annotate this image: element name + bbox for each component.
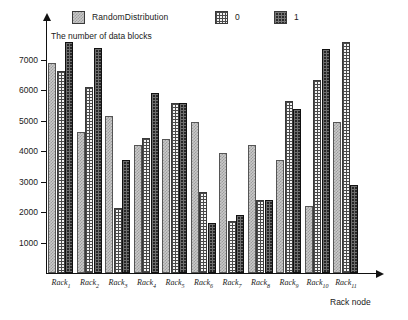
y-tick-label: 2000 [19,207,38,217]
bar [57,71,65,273]
bar [65,42,73,273]
bar [77,132,85,273]
bar [236,215,244,273]
x-axis-arrow-icon [376,270,384,278]
bar [48,63,56,273]
bar [333,122,341,273]
y-tick-label: 6000 [19,85,38,95]
bar-group [48,20,78,273]
bar-group [305,20,335,273]
bar [191,122,199,273]
bar [151,93,159,273]
bar [350,185,358,273]
bar-group [191,20,221,273]
x-axis-title: Rack node [330,297,371,307]
bar [179,103,187,273]
bar [293,109,301,273]
bar-chart: RandomDistribution 0 1 The number of dat… [0,0,408,320]
y-tick-label: 3000 [19,177,38,187]
bar-group [77,20,107,273]
bar [265,200,273,273]
bar [256,200,264,273]
bar-group [248,20,278,273]
bar [219,153,227,273]
bar [248,145,256,273]
y-tick-label: 5000 [19,116,38,126]
bar [342,42,350,273]
bar [114,208,122,273]
bar-group [134,20,164,273]
bar [208,223,216,273]
bars-layer [46,20,377,273]
bar [276,160,284,273]
x-axis-line [46,273,377,274]
bar [162,139,170,273]
bar [142,138,150,273]
bar [305,206,313,273]
x-axis-label: Rack11 [326,278,366,289]
bar [134,145,142,273]
y-tick-label: 1000 [19,238,38,248]
bar-group [219,20,249,273]
bar-group [333,20,363,273]
bar [171,103,179,273]
bar [122,160,130,273]
bar [85,87,93,273]
bar-group [276,20,306,273]
bar [105,116,113,273]
bar [228,221,236,273]
bar [322,49,330,273]
y-tick-label: 7000 [19,55,38,65]
y-tick-label: 4000 [19,146,38,156]
bar [313,80,321,273]
bar-group [162,20,192,273]
bar-group [105,20,135,273]
bar [285,101,293,273]
bar [199,192,207,273]
bar [94,48,102,273]
